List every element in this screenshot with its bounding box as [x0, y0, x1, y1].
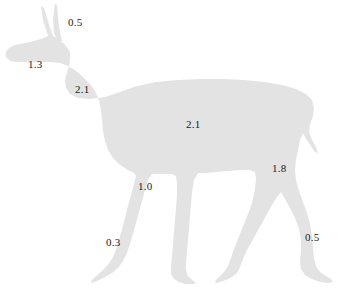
annotated-deer-figure: 0.5 1.3 2.1 2.1 1.8 1.0 0.3 0.5 [0, 0, 342, 293]
deer-silhouette-icon [0, 0, 342, 293]
annotation-body: 2.1 [186, 119, 201, 130]
deer-silhouette-shape [5, 4, 333, 284]
annotation-hind-leg: 1.8 [272, 163, 287, 174]
annotation-hind-hoof: 0.5 [305, 232, 320, 243]
annotation-front-leg: 1.0 [138, 181, 153, 192]
annotation-head: 1.3 [28, 59, 43, 70]
annotation-ears: 0.5 [68, 17, 83, 28]
annotation-front-hoof: 0.3 [106, 237, 121, 248]
annotation-neck: 2.1 [75, 84, 90, 95]
